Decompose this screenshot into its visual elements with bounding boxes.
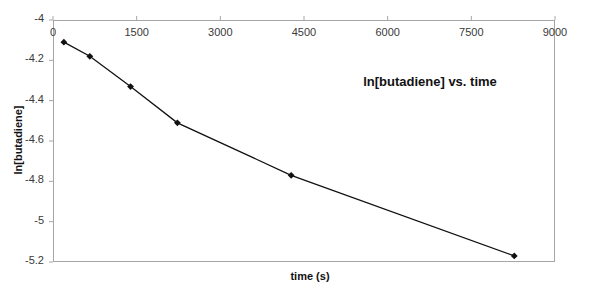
y-tick-label: -5.2 <box>4 254 44 266</box>
x-tick-label: 4500 <box>274 26 334 38</box>
plot-area <box>53 20 555 262</box>
x-axis-label: time (s) <box>250 270 370 282</box>
x-tick-label: 0 <box>23 26 83 38</box>
x-tick-label: 6000 <box>358 26 418 38</box>
y-tick-label: -4.4 <box>4 93 44 105</box>
y-tick-label: -4.8 <box>4 173 44 185</box>
x-tick-label: 3000 <box>190 26 250 38</box>
y-tick-label: -4 <box>4 12 44 24</box>
x-tick-label: 9000 <box>525 26 585 38</box>
y-tick-label: -5 <box>4 214 44 226</box>
y-tick-label: -4.2 <box>4 52 44 64</box>
chart-figure: 0150030004500600075009000 -4-4.2-4.4-4.6… <box>0 0 602 296</box>
y-tick-label: -4.6 <box>4 133 44 145</box>
x-tick-label: 1500 <box>107 26 167 38</box>
x-tick-label: 7500 <box>441 26 501 38</box>
y-axis-label: ln[butadiene] <box>12 85 24 195</box>
chart-title: ln[butadiene] vs. time <box>330 74 530 89</box>
